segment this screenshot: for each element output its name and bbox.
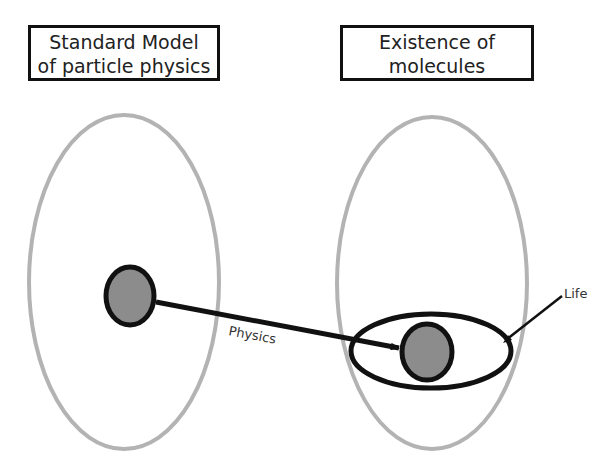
life-label: Life — [564, 286, 587, 301]
standard-model-node — [106, 267, 154, 325]
physics-arrow — [156, 302, 399, 348]
right-universe-ellipse — [337, 117, 527, 449]
diagram-canvas: Physics Life — [0, 0, 614, 467]
life-pointer-line — [506, 296, 562, 340]
molecule-node — [402, 324, 452, 380]
physics-label: Physics — [227, 323, 277, 347]
